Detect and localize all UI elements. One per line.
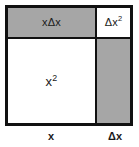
region-x-delta-x-label: xΔx [42,17,61,28]
region-x-squared-exponent: 2 [52,72,57,82]
region-delta-x-squared-exponent: 2 [118,14,122,23]
region-delta-x-squared-base: Δx [105,16,118,28]
region-delta-x-times-x [97,39,130,123]
region-x-squared-label: x2 [46,75,58,88]
bottom-axis-labels: x Δx [5,128,133,145]
area-model-diagram: xΔx Δx2 x2 x Δx [0,0,139,147]
outer-square-outline: xΔx Δx2 x2 [5,5,133,126]
region-x-delta-x: xΔx [8,8,97,39]
region-x-squared: x2 [8,39,97,123]
axis-label-x: x [5,128,97,145]
region-delta-x-squared-label: Δx2 [105,17,123,28]
axis-label-delta-x: Δx [97,128,133,145]
region-delta-x-squared: Δx2 [97,8,130,39]
